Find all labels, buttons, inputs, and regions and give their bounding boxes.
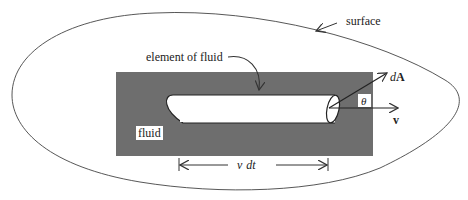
surface-pointer-arrow [316, 23, 337, 31]
fluid-label: fluid [138, 126, 161, 140]
theta-label: θ [361, 95, 367, 107]
dA-label: dA [390, 70, 405, 84]
flux-diagram: surface element of fluid dA θ v fluid vd… [0, 0, 468, 200]
velocity-label: v [393, 113, 399, 127]
vdt-label: vdt [237, 158, 256, 172]
diagram-canvas: surface element of fluid dA θ v fluid vd… [0, 0, 468, 200]
surface-label: surface [346, 14, 381, 28]
element-of-fluid-label: element of fluid [146, 50, 223, 64]
